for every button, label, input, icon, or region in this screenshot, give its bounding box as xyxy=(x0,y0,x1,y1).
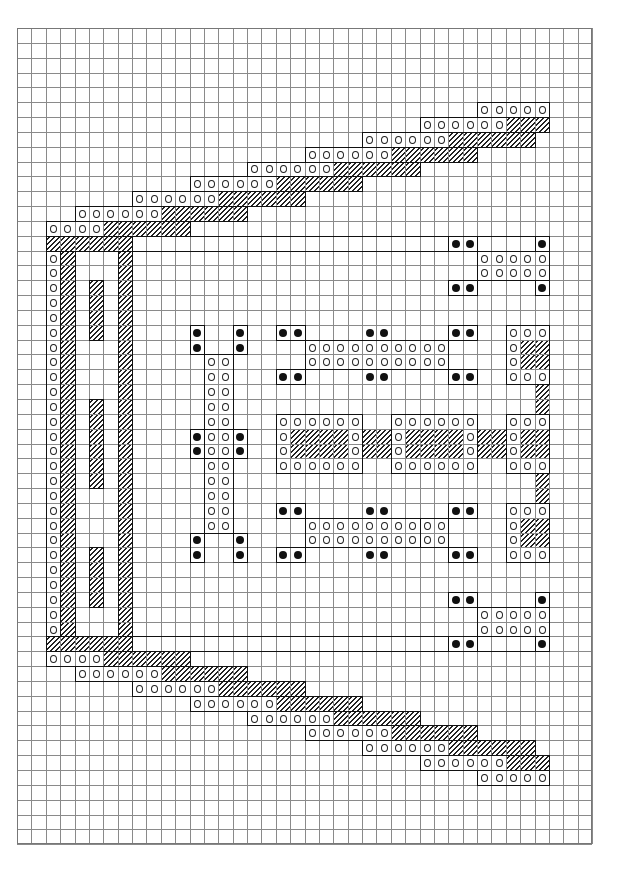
gridline-horizontal xyxy=(17,844,592,845)
grid-frame xyxy=(17,28,592,844)
cross-stitch-chart xyxy=(17,28,592,844)
gridline-vertical xyxy=(592,28,593,844)
